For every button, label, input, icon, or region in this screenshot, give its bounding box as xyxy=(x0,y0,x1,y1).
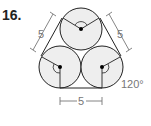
left-side-label: 5 xyxy=(38,28,44,40)
three-circles-belt-diagram: 5 5 5 120° xyxy=(0,0,151,126)
bottom-side-label: 5 xyxy=(78,95,84,107)
right-side-label: 5 xyxy=(117,28,123,40)
angle-label: 120° xyxy=(121,78,144,90)
circles xyxy=(39,8,123,88)
